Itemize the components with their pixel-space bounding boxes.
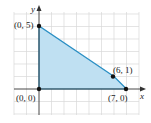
- point-0-5: [37, 24, 41, 28]
- label-6-1: (6, 1): [113, 65, 133, 75]
- point-0-0: [37, 87, 41, 91]
- y-axis-arrow-icon: [37, 5, 42, 11]
- label-7-0: (7, 0): [108, 93, 128, 103]
- label-0-0: (0, 0): [16, 93, 36, 103]
- point-7-0: [124, 87, 128, 91]
- x-axis-label: x: [139, 91, 144, 101]
- chart: y x (0, 5) (6, 1) (7, 0) (0, 0): [0, 0, 151, 123]
- label-0-5: (0, 5): [14, 20, 34, 30]
- y-axis-label: y: [30, 4, 35, 14]
- feasible-region: [39, 26, 127, 89]
